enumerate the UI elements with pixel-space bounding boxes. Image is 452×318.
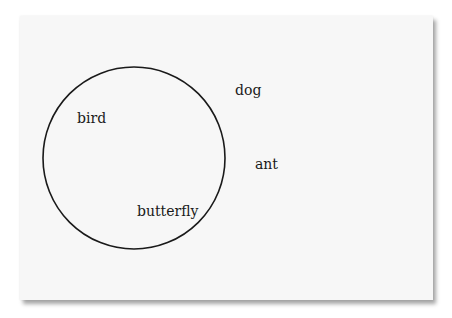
label-bird: bird bbox=[77, 111, 106, 125]
page: bird butterfly dog ant bbox=[0, 0, 452, 318]
venn-diagram bbox=[0, 0, 452, 318]
label-butterfly: butterfly bbox=[137, 204, 198, 218]
label-dog: dog bbox=[235, 83, 261, 97]
set-circle bbox=[43, 67, 225, 249]
label-ant: ant bbox=[255, 157, 278, 171]
